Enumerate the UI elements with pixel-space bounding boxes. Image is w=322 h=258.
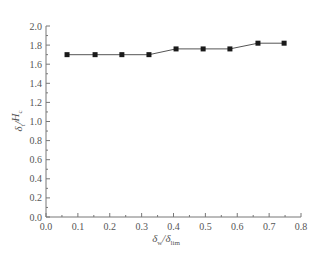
x-tick-label: 0.2 xyxy=(104,221,117,232)
x-tick-label: 0.4 xyxy=(167,221,180,232)
x-tick-label: 0.8 xyxy=(295,221,308,232)
x-tick-label: 0.6 xyxy=(231,221,244,232)
y-tick-label: 1.6 xyxy=(30,59,43,70)
x-axis-label: δw/δlim xyxy=(152,232,180,247)
data-point-square-marker xyxy=(255,41,260,46)
y-tick-label: 1.2 xyxy=(30,97,43,108)
x-tick-label: 0.3 xyxy=(135,221,148,232)
chart-series xyxy=(65,41,287,57)
x-tick-label: 0.0 xyxy=(40,221,53,232)
chart-axes: 0.00.10.20.30.40.50.60.70.80.00.20.40.60… xyxy=(30,21,308,233)
y-tick-label: 0.6 xyxy=(30,154,43,165)
y-tick-label: 1.4 xyxy=(30,78,43,89)
y-tick-label: 1.8 xyxy=(30,40,43,51)
x-tick-label: 0.5 xyxy=(199,221,212,232)
y-tick-label: 0.4 xyxy=(30,173,43,184)
x-tick-label: 0.7 xyxy=(263,221,276,232)
y-tick-label: 1.0 xyxy=(30,116,43,127)
data-point-square-marker xyxy=(201,46,206,51)
y-tick-label: 0.2 xyxy=(30,192,43,203)
x-tick-label: 0.1 xyxy=(72,221,85,232)
data-point-square-marker xyxy=(146,52,151,57)
y-axis-label: δt/Hc xyxy=(9,110,27,131)
data-point-square-marker xyxy=(227,46,232,51)
y-tick-label: 2.0 xyxy=(30,21,43,32)
y-tick-label: 0.8 xyxy=(30,135,43,146)
line-chart: 0.00.10.20.30.40.50.60.70.80.00.20.40.60… xyxy=(0,0,322,258)
data-point-square-marker xyxy=(282,41,287,46)
y-tick-label: 0.0 xyxy=(30,212,43,223)
data-point-square-marker xyxy=(174,46,179,51)
data-point-square-marker xyxy=(65,52,70,57)
data-point-square-marker xyxy=(119,52,124,57)
data-point-square-marker xyxy=(93,52,98,57)
